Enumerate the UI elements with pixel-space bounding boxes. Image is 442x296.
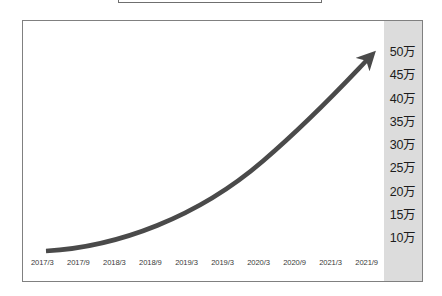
chart-frame: 2017/3 2017/9 2018/3 2018/9 2019/3 2019/… [22,20,423,282]
x-tick-label: 2020/3 [247,258,270,267]
y-tick-label: 25万 [390,157,416,180]
x-tick-label: 2020/9 [283,258,306,267]
y-tick-label: 45万 [390,64,416,87]
growth-arrow-icon [23,21,386,282]
x-tick-label: 2019/3 [175,258,198,267]
x-tick-label: 2017/9 [67,258,90,267]
y-tick-label: 15万 [390,204,416,227]
y-tick-label: 35万 [390,111,416,134]
plot-area: 2017/3 2017/9 2018/3 2018/9 2019/3 2019/… [23,21,422,281]
x-tick-label: 2018/3 [103,258,126,267]
x-tick-label: 2019/3 [211,258,234,267]
y-tick-label: 50万 [390,41,416,64]
x-tick-label: 2018/9 [139,258,162,267]
y-axis-band: 50万 45万 40万 35万 30万 25万 20万 15万 10万 [384,21,422,281]
x-tick-label: 2021/3 [319,258,342,267]
x-tick-label: 2021/9 [355,258,378,267]
y-tick-label: 20万 [390,181,416,204]
y-tick-label: 10万 [390,227,416,250]
y-tick-label: 30万 [390,134,416,157]
x-tick-label: 2017/3 [31,258,54,267]
x-axis-labels: 2017/3 2017/9 2018/3 2018/9 2019/3 2019/… [23,258,386,267]
y-tick-label: 40万 [390,88,416,111]
title-strip [118,0,322,3]
